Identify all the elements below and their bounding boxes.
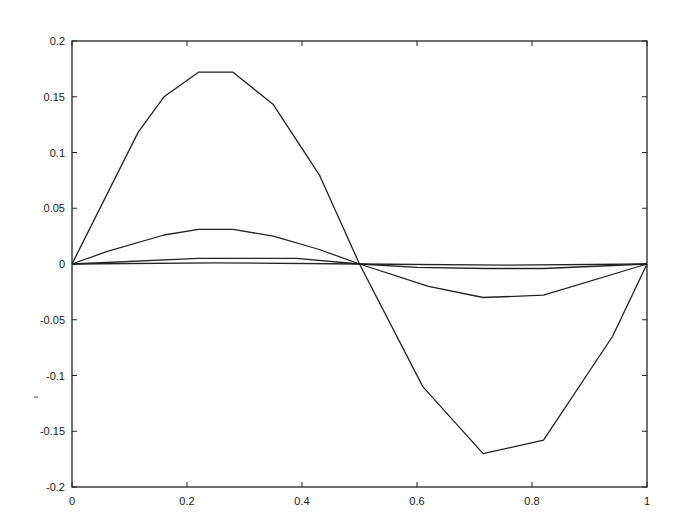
x-tick-label: 0.6	[409, 495, 424, 507]
y-tick-label: -0.15	[40, 425, 65, 437]
x-tick-label: 1	[644, 495, 650, 507]
y-tick-label: 0.1	[50, 147, 65, 159]
y-tick-label: 0	[59, 258, 65, 270]
x-tick-label: 0.4	[294, 495, 309, 507]
data-series	[72, 72, 647, 453]
y-tick-label: 0.2	[50, 35, 65, 47]
y-tick-label: 0.05	[44, 202, 65, 214]
x-tick-label: 0.2	[179, 495, 194, 507]
x-axis: 00.20.40.60.81	[69, 41, 650, 507]
y-tick-label: -0.05	[40, 314, 65, 326]
x-tick-label: 0	[69, 495, 75, 507]
y-tick-label: -0.1	[46, 370, 65, 382]
y-tick-label: -0.2	[46, 481, 65, 493]
line-chart: 00.20.40.60.81 0.20.150.10.050-0.05-0.1-…	[0, 0, 680, 531]
x-tick-label: 0.8	[524, 495, 539, 507]
y-tick-label: 0.15	[44, 91, 65, 103]
